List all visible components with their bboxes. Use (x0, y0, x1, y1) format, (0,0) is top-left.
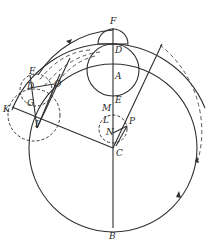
label-F-top: F (109, 16, 117, 26)
dashed-right-arc (160, 45, 202, 160)
label-F-left: F (28, 66, 36, 76)
epicycle-diagram: F D A E M L P N C B F D O G K I (0, 0, 221, 248)
label-P: P (128, 116, 136, 126)
arrow-icon (176, 191, 181, 198)
label-N: N (105, 127, 115, 137)
outer-arc (12, 44, 205, 110)
label-O: O (54, 79, 62, 89)
dashed-epicycle-D (20, 74, 52, 106)
label-I: I (34, 119, 39, 129)
label-B: B (108, 231, 116, 241)
label-D-left: D (26, 81, 34, 91)
line-K-C (12, 107, 113, 148)
label-M: M (101, 103, 112, 113)
label-E: E (114, 95, 122, 105)
label-C: C (116, 148, 123, 158)
label-A: A (114, 71, 122, 81)
label-G: G (27, 98, 34, 108)
label-D-top: D (114, 45, 122, 55)
label-L: L (102, 115, 109, 125)
label-K: K (2, 104, 11, 114)
